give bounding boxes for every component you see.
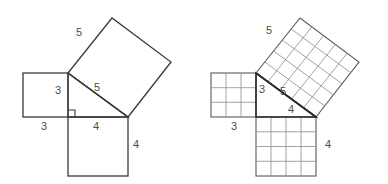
label-leg-a-vertical: 3	[55, 84, 61, 96]
figure-canvas: 5 5 3 3 4 4	[0, 0, 388, 184]
label-hypotenuse-inner: 5	[280, 85, 286, 97]
label-leg-a-bottom: 3	[231, 120, 237, 132]
label-leg-b-top: 4	[93, 120, 99, 132]
pythagorean-theorem-figure: 5 5 3 3 4 4	[0, 0, 388, 184]
gridded-square-on-leg-a-outline	[211, 73, 256, 117]
gridded-square-on-leg-b	[256, 117, 316, 176]
gridded-square-on-leg-a	[211, 73, 256, 117]
label-leg-b-right: 4	[133, 138, 139, 150]
label-leg-a-vertical: 3	[259, 83, 265, 95]
plain-square-on-leg-a	[23, 73, 68, 117]
label-leg-a-bottom: 3	[41, 120, 47, 132]
label-hypotenuse-outer: 5	[266, 24, 272, 36]
label-hypotenuse-outer: 5	[76, 26, 82, 38]
label-hypotenuse-inner: 5	[94, 81, 100, 93]
label-leg-b-top: 4	[288, 103, 294, 115]
label-leg-b-right: 4	[325, 138, 331, 150]
